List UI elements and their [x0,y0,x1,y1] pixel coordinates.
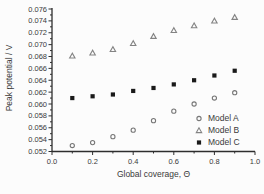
svg-text:0.070: 0.070 [28,40,47,49]
svg-text:0.4: 0.4 [128,157,138,166]
chart-canvas: 0.00.20.40.60.81.00.0520.0540.0560.0580.… [0,0,264,194]
triangle-marker-icon [194,125,204,135]
legend-item-model-b: Model B [194,124,240,135]
svg-text:0.064: 0.064 [28,76,47,85]
y-axis-title: Peak potential / V [4,38,14,118]
scatter-plot-figure: 0.00.20.40.60.81.00.0520.0540.0560.0580.… [0,0,264,194]
legend: Model A Model B Model C [194,112,240,147]
svg-text:0.2: 0.2 [87,157,97,166]
x-axis-title: Global coverage, Θ [52,169,255,179]
circle-marker-icon [194,113,204,123]
svg-text:0.076: 0.076 [28,5,47,14]
legend-label: Model C [208,137,240,147]
svg-text:0.6: 0.6 [169,157,179,166]
svg-text:0.062: 0.062 [28,88,47,97]
legend-item-model-a: Model A [194,112,240,123]
svg-text:0.066: 0.066 [28,64,47,73]
legend-label: Model A [208,113,239,123]
svg-text:0.072: 0.072 [28,28,47,37]
legend-label: Model B [208,125,239,135]
square-marker-icon [194,137,204,147]
svg-text:0.052: 0.052 [28,147,47,156]
svg-text:0.0: 0.0 [47,157,57,166]
svg-text:0.068: 0.068 [28,52,47,61]
svg-text:0.8: 0.8 [209,157,219,166]
legend-item-model-c: Model C [194,136,240,147]
series-model-c [70,69,237,101]
svg-text:0.060: 0.060 [28,100,47,109]
series-model-b [70,15,238,58]
svg-text:1.0: 1.0 [250,157,260,166]
svg-text:0.058: 0.058 [28,111,47,120]
svg-text:0.054: 0.054 [28,135,47,144]
svg-text:0.074: 0.074 [28,16,47,25]
svg-text:0.056: 0.056 [28,123,47,132]
